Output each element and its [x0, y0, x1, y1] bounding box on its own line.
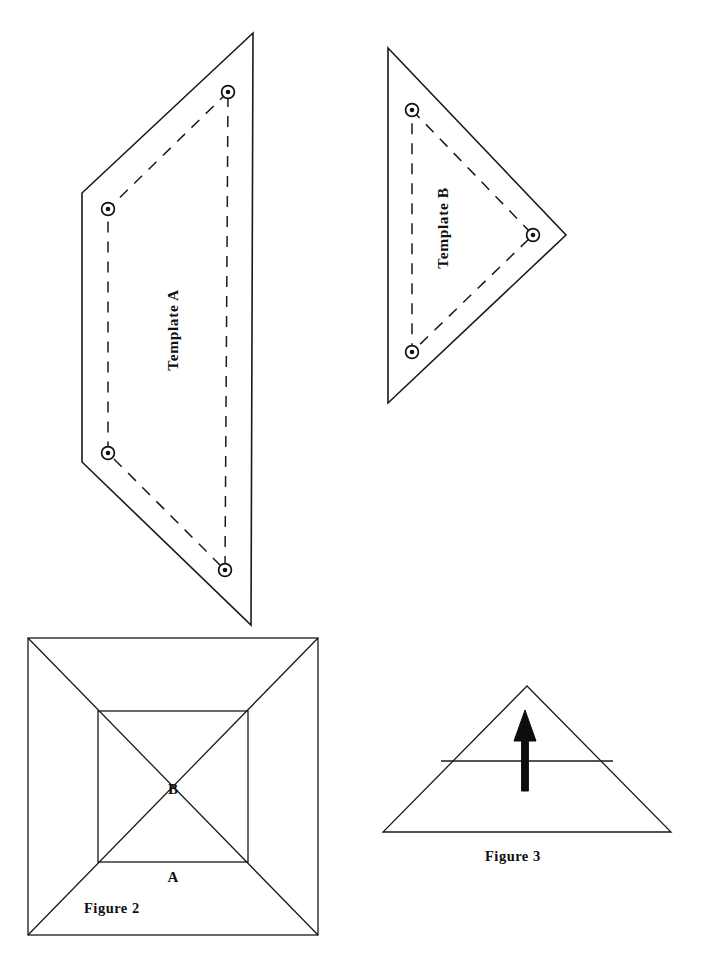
- marker-top: [406, 104, 419, 117]
- marker-bottom: [406, 346, 419, 359]
- template-b-label: Template B: [434, 187, 451, 269]
- figure-2-group: B A Figure 2: [28, 638, 318, 935]
- figures-canvas: Template A Template B: [0, 0, 705, 965]
- template-a-group: Template A: [82, 33, 253, 625]
- figure-2-inner-region-label: B: [168, 781, 178, 797]
- figure-3-caption: Figure 3: [485, 848, 541, 864]
- template-a-label: Template A: [164, 289, 181, 371]
- figure-3-up-arrow-icon: [514, 710, 536, 791]
- figure-2-outer-region-label: A: [168, 869, 179, 885]
- drawing-sheet: Template A Template B: [0, 0, 705, 965]
- marker-top-left: [102, 203, 115, 216]
- figure-3-group: Figure 3: [383, 686, 671, 864]
- marker-top-right: [222, 86, 235, 99]
- marker-bottom-left: [102, 447, 115, 460]
- marker-right: [527, 229, 540, 242]
- marker-bottom-right: [219, 564, 232, 577]
- template-b-markers: [406, 104, 540, 359]
- template-b-dashed-path: [412, 110, 533, 352]
- template-b-group: Template B: [388, 48, 566, 403]
- figure-2-caption: Figure 2: [84, 900, 140, 916]
